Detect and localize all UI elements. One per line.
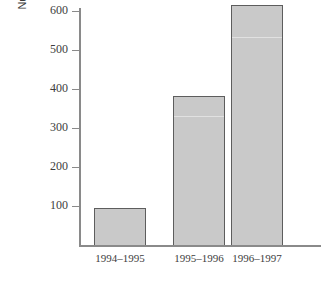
y-axis-title: Number of children in nursery school (pe… xyxy=(10,0,50,40)
y-axis-title-line-1: Number of children in nursery school xyxy=(16,0,30,10)
y-axis-tick-label: 500 xyxy=(50,42,68,57)
bar xyxy=(231,5,283,245)
y-axis-tick-label: 200 xyxy=(50,159,68,174)
y-axis-tick-label: 100 xyxy=(50,198,68,213)
bar-sheen-line xyxy=(232,37,282,38)
x-axis-label: 1996–1997 xyxy=(217,252,297,264)
y-axis-tick: 200 xyxy=(72,167,80,168)
x-axis-label: 1994–1995 xyxy=(80,252,160,264)
bar-sheen-line xyxy=(174,116,224,117)
y-axis-tick-label: 600 xyxy=(50,3,68,18)
y-axis-tick: 400 xyxy=(72,89,80,90)
plot-area: 100200300400500600 xyxy=(79,8,321,245)
y-axis-tick-label: 300 xyxy=(50,120,68,135)
x-axis-line xyxy=(79,245,321,247)
bar xyxy=(94,208,146,245)
bar xyxy=(173,96,225,245)
y-axis-tick: 500 xyxy=(72,50,80,51)
y-axis-tick: 300 xyxy=(72,128,80,129)
y-axis-tick: 100 xyxy=(72,206,80,207)
y-axis-tick: 600 xyxy=(72,11,80,12)
y-axis-line xyxy=(79,8,81,245)
bar-chart: Number of children in nursery school (pe… xyxy=(0,0,331,282)
y-axis-tick-label: 400 xyxy=(50,81,68,96)
